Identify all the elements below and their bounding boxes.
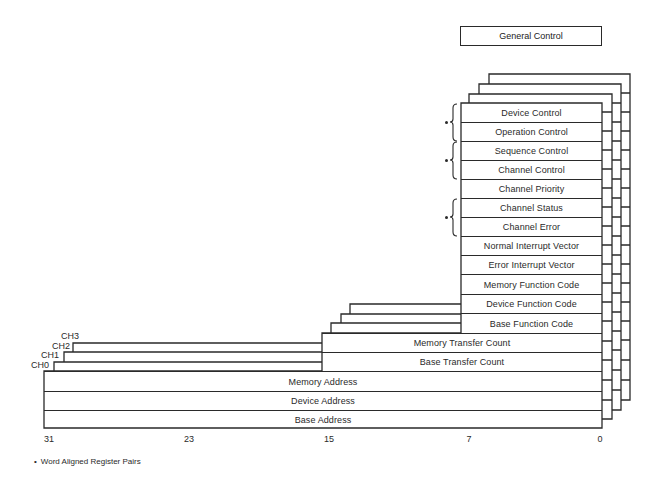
- channel-label-ch0: CH0: [31, 360, 49, 370]
- register-error-interrupt-vector: Error Interrupt Vector: [461, 255, 602, 274]
- register-label: Base Address: [295, 415, 352, 425]
- register-label: Channel Control: [498, 165, 565, 175]
- bit-label-7: 7: [466, 434, 471, 444]
- footnote-text: Word Aligned Register Pairs: [41, 457, 141, 466]
- register-label: Normal Interrupt Vector: [484, 241, 579, 251]
- register-channel-error: Channel Error: [461, 217, 602, 236]
- register-label: Device Address: [291, 396, 355, 406]
- register-label: Base Function Code: [490, 319, 573, 329]
- register-channel-priority: Channel Priority: [461, 179, 602, 198]
- register-memory-function-code: Memory Function Code: [461, 274, 602, 294]
- register-base-transfer-count: Base Transfer Count: [322, 352, 602, 371]
- register-operation-control: Operation Control: [461, 122, 602, 141]
- channel-label-ch1: CH1: [41, 350, 59, 360]
- register-label: Error Interrupt Vector: [488, 260, 574, 270]
- register-label: Memory Function Code: [484, 280, 580, 290]
- register-label: Base Transfer Count: [420, 357, 504, 367]
- channel-label-ch3: CH3: [61, 331, 79, 341]
- register-label: Device Function Code: [486, 299, 577, 309]
- register-base-address: Base Address: [44, 410, 602, 428]
- register-memory-transfer-count: Memory Transfer Count: [322, 333, 602, 352]
- register-label: Memory Address: [289, 377, 358, 387]
- footnote: • Word Aligned Register Pairs: [34, 457, 141, 466]
- bullet-icon: •: [34, 457, 37, 466]
- register-channel-status: Channel Status: [461, 198, 602, 217]
- register-label: Sequence Control: [495, 146, 569, 156]
- bit-label-15: 15: [324, 434, 334, 444]
- word-aligned-pair-marker: [445, 216, 448, 219]
- bit-label-0: 0: [597, 434, 602, 444]
- register-sequence-control: Sequence Control: [461, 141, 602, 160]
- register-device-control: Device Control: [461, 103, 602, 122]
- bit-label-23: 23: [184, 434, 194, 444]
- word-aligned-pair-marker: [445, 121, 448, 124]
- word-aligned-pair-marker: [445, 159, 448, 162]
- register-label: Channel Error: [503, 222, 560, 232]
- register-base-function-code: Base Function Code: [461, 313, 602, 333]
- register-label: Memory Transfer Count: [414, 338, 511, 348]
- register-label: Operation Control: [495, 127, 568, 137]
- register-device-address: Device Address: [44, 391, 602, 410]
- register-memory-address: Memory Address: [44, 371, 602, 391]
- register-label: Channel Status: [500, 203, 563, 213]
- register-channel-control: Channel Control: [461, 160, 602, 179]
- bit-label-31: 31: [44, 434, 54, 444]
- register-label: Channel Priority: [499, 184, 565, 194]
- register-label: Device Control: [501, 108, 561, 118]
- register-normal-interrupt-vector: Normal Interrupt Vector: [461, 236, 602, 255]
- register-device-function-code: Device Function Code: [461, 294, 602, 313]
